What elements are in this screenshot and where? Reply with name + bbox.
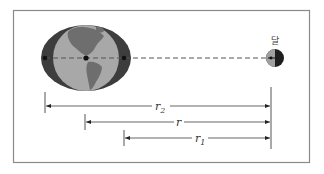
earth-moon-diagram: 달 r2 r r1 — [0, 0, 324, 174]
r-label: r — [176, 116, 182, 129]
far-side-point — [43, 56, 48, 61]
near-side-point — [122, 56, 127, 61]
earth-center-point — [83, 55, 88, 60]
moon-icon — [266, 49, 284, 67]
moon-label: 달 — [271, 35, 279, 46]
